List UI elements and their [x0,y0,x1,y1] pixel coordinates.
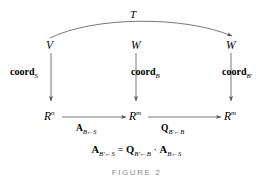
vertical-map-label-coord-S: coordS [10,67,38,80]
arrow-label-Q-Bprime-from-B: QB′←B [161,124,184,135]
equation-rhs1-subscript: B′←B [134,150,151,157]
node-bottom-right-sup: m [231,109,236,117]
vertical-map-label-coord-B: coordB [131,67,160,80]
coord-Bprime-subscript: B′ [246,72,252,79]
node-bottom-left-sup: n [51,109,55,117]
equation-lhs-base: A [91,144,99,155]
arrow-label-A-base: A [76,123,83,133]
equation-rhs2-subscript: B←S [167,150,181,157]
node-top-right-name: W [226,39,236,51]
node-top-middle-name: W [131,39,141,51]
node-bottom-left: Rn [44,110,55,122]
node-bottom-right: Rm [224,110,236,122]
map-label-T: T [130,9,136,20]
node-top-middle: W [131,39,141,51]
node-bottom-left-name: R [44,110,51,122]
coord-S-base: coord [10,66,34,77]
figure-caption: FIGURE 2 [0,168,273,176]
coord-Bprime-base: coord [222,66,246,77]
commutative-diagram-figure: T V W W coordS coordB coordB′ Rn Rm Rm A… [0,0,273,176]
matrix-composition-equation: AB′←S = QB′←B · AB←S [0,145,273,158]
node-bottom-middle-sup: m [136,109,141,117]
node-top-right: W [226,39,236,51]
vertical-map-label-coord-Bprime: coordB′ [222,67,252,80]
node-top-left: V [46,39,53,51]
arrow-label-A-B-from-S: AB←S [76,124,97,135]
node-top-left-name: V [46,39,53,51]
coord-B-subscript: B [155,72,159,79]
node-bottom-middle-name: R [129,110,136,122]
arrow-label-Q-subscript: B′←B [168,128,184,135]
arrow-label-A-subscript: B←S [83,128,97,135]
node-bottom-right-name: R [224,110,231,122]
coord-B-base: coord [131,66,155,77]
node-bottom-middle: Rm [129,110,141,122]
coord-S-subscript: S [34,72,37,79]
curved-arrow-T [50,21,232,38]
equation-rhs1-base: Q [126,144,134,155]
equation-lhs-subscript: B′←S [99,150,115,157]
